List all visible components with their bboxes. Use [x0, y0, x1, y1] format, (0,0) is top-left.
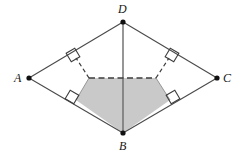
- vertex-label-c: C: [223, 72, 231, 84]
- vertex-dot-b: [120, 130, 125, 135]
- vertex-dot-a: [26, 75, 31, 80]
- vertex-dot-d: [120, 19, 125, 24]
- vertex-label-b: B: [119, 140, 126, 152]
- edge-dc: [123, 22, 217, 78]
- vertex-label-d: D: [118, 3, 127, 15]
- geometry-figure: A B C D: [0, 0, 244, 159]
- geometry-canvas: [0, 0, 244, 159]
- right-angle-mark-lower-left: [65, 90, 79, 104]
- dashed-perp-upper-right: [156, 58, 169, 78]
- vertex-label-a: A: [14, 72, 21, 84]
- dashed-perp-upper-left: [76, 58, 89, 78]
- vertex-dot-c: [214, 75, 219, 80]
